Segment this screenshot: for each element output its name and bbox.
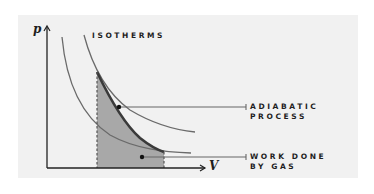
adiabatic-label: ADIABATIC PROCESS [250, 102, 318, 122]
work-done-label-line2: BY GAS [250, 162, 326, 172]
y-axis-label: p [33, 22, 41, 36]
adiabatic-label-line2: PROCESS [250, 112, 318, 122]
adiabatic-leader-dot [117, 105, 121, 109]
work-done-label: WORK DONE BY GAS [250, 152, 326, 172]
x-axis-label: V [209, 159, 218, 173]
work-leader-dot [140, 155, 144, 159]
work-done-label-line1: WORK DONE [250, 152, 326, 162]
isotherms-label: ISOTHERMS [92, 31, 165, 41]
adiabatic-label-line1: ADIABATIC [250, 102, 318, 112]
